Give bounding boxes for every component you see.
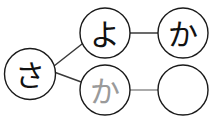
nodes-layer: さよかか bbox=[5, 8, 209, 115]
node-yo[interactable]: よ bbox=[80, 8, 130, 58]
edge-sa-to-yo bbox=[54, 44, 82, 66]
node-sa-label: さ bbox=[15, 58, 45, 93]
node-ka-ghost[interactable]: か bbox=[80, 65, 130, 115]
node-sa[interactable]: さ bbox=[5, 49, 56, 100]
node-ka-ghost-label: か bbox=[90, 74, 120, 109]
node-ka-top[interactable]: か bbox=[158, 8, 208, 58]
node-ka-top-label: か bbox=[168, 17, 198, 52]
diagram-canvas: さよかか bbox=[0, 0, 213, 123]
node-yo-label: よ bbox=[90, 17, 120, 52]
node-link-diagram: さよかか bbox=[0, 0, 213, 123]
edge-sa-to-ka-ghost bbox=[54, 72, 84, 83]
node-blank[interactable] bbox=[158, 65, 208, 115]
node-blank-outline bbox=[158, 65, 208, 115]
